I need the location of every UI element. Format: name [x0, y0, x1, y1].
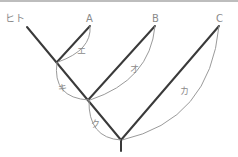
branch-label-ku: ク [91, 119, 100, 129]
taxon-label-A: A [86, 13, 93, 24]
branch-label-e: エ [77, 46, 86, 56]
branch-label-ki: キ [58, 83, 67, 93]
taxon-label-B: B [152, 13, 159, 24]
branch-label-ka: カ [180, 86, 189, 96]
branch-B [89, 26, 155, 99]
branch-label-o: オ [130, 64, 139, 74]
taxon-label-C: C [216, 13, 223, 24]
taxon-label-human: ヒト [5, 13, 25, 24]
phylogenetic-tree-diagram: ヒト A B C エ オ キ ク カ [0, 0, 238, 157]
tree-svg: ヒト A B C エ オ キ ク カ [0, 0, 238, 157]
branch-C [121, 26, 219, 140]
